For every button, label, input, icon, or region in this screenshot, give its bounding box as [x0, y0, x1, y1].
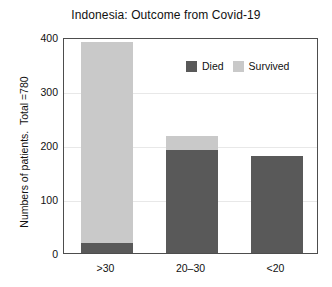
- x-axis-tick-label: 20–30: [146, 262, 236, 274]
- bar-group[interactable]: [81, 37, 133, 253]
- y-axis-tick-label: 0: [0, 249, 58, 259]
- legend-swatch-icon: [186, 61, 197, 72]
- y-axis-tick-label: 200: [0, 141, 58, 151]
- bar-segment-survived[interactable]: [166, 136, 218, 151]
- chart-title: Indonesia: Outcome from Covid-19: [0, 8, 332, 22]
- bar-segment-survived[interactable]: [81, 42, 133, 243]
- chart-figure: Indonesia: Outcome from Covid-19 Numbers…: [0, 0, 332, 287]
- bar-segment-died[interactable]: [251, 156, 303, 253]
- legend-entry-survived[interactable]: Survived: [233, 60, 290, 72]
- y-axis-title: Numbers of patients. Total =780: [18, 42, 30, 262]
- y-axis-tick-label: 300: [0, 87, 58, 97]
- bar-segment-died[interactable]: [166, 150, 218, 253]
- legend-label: Survived: [249, 60, 290, 72]
- legend-entry-died[interactable]: Died: [186, 60, 224, 72]
- legend-swatch-icon: [233, 61, 244, 72]
- y-axis-tick-label: 400: [0, 33, 58, 43]
- bar-segment-died[interactable]: [81, 243, 133, 253]
- x-axis-tick-label: <20: [231, 262, 321, 274]
- legend-label: Died: [202, 60, 224, 72]
- y-axis-tick-label: 100: [0, 195, 58, 205]
- x-axis-tick-label: >30: [61, 262, 151, 274]
- chart-legend: DiedSurvived: [186, 60, 289, 72]
